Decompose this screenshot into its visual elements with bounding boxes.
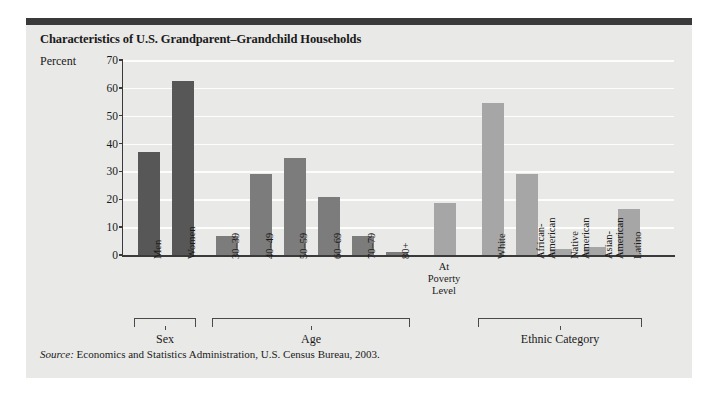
y-tick-mark [119,143,123,144]
gridline [123,144,674,146]
source-note: Source: Economics and Statistics Adminis… [40,348,380,360]
x-axis-line [122,255,675,257]
y-tick-label: 10 [107,221,119,233]
group-label-age: Age [301,332,321,347]
gridline [123,116,674,118]
bracket-tick-sex [165,326,166,330]
y-tick-mark [119,59,123,60]
group-label-ethnic: Ethnic Category [521,332,599,347]
x-tick-label-line: Poverty [428,273,461,285]
y-tick-mark [119,226,123,227]
y-tick-label: 30 [107,165,119,177]
source-prefix: Source: [40,348,74,360]
group-label-sex: Sex [156,332,174,347]
x-tick-label-line: 70–79 [367,233,378,259]
chart-figure: Characteristics of U.S. Grandparent–Gran… [26,18,692,378]
y-tick-mark [119,115,123,116]
x-tick-label-line: 30–39 [231,233,242,259]
page-title: Characteristics of U.S. Grandparent–Gran… [40,32,361,47]
top-rule [26,18,692,25]
x-tick-label-line: American [581,218,592,259]
gridline [123,199,674,201]
x-tick-label-line: American [615,218,626,259]
gridline [123,88,674,90]
x-tick-label-line: White [497,233,508,259]
bracket-tick-age [311,326,312,330]
x-tick-label-line: American [547,218,558,259]
y-tick-mark [119,199,123,200]
x-tick-label: AtPovertyLevel [428,261,461,297]
x-tick-label-line: 60–69 [333,233,344,259]
y-tick-label: 40 [107,138,119,150]
y-tick-mark [119,171,123,172]
y-tick-label: 0 [112,249,118,261]
y-axis-label: Percent [40,54,76,69]
y-tick-label: 20 [107,193,119,205]
x-tick-label-line: 50–59 [299,233,310,259]
gridline [123,171,674,173]
x-tick-label-line: Level [428,285,461,297]
y-tick-label: 70 [107,54,119,66]
y-tick-label: 60 [107,82,119,94]
bar-at-poverty-level [434,203,456,255]
x-tick-label-line: 40–49 [265,233,276,259]
x-tick-label-line: Women [187,227,198,259]
figure-page: Characteristics of U.S. Grandparent–Gran… [0,0,718,396]
x-tick-label-line: Latino [633,232,644,259]
x-tick-label-line: Men [153,240,164,259]
source-text: Economics and Statistics Administration,… [74,348,380,360]
x-tick-label-line: 80+ [401,243,412,259]
y-tick-mark [119,87,123,88]
x-tick-label-line: At [428,261,461,273]
gridline [123,60,674,62]
y-tick-label: 50 [107,110,119,122]
bracket-tick-ethnic [560,326,561,330]
